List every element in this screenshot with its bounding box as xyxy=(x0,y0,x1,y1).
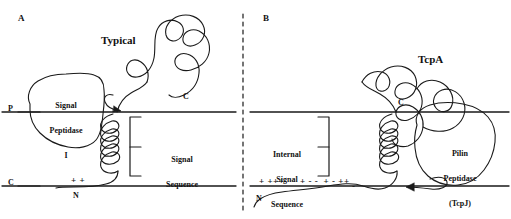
c-terminus-label-right: C xyxy=(398,99,404,107)
internal-signal-helix xyxy=(380,114,399,173)
pilin-peptidase-label-line1: Pilin xyxy=(424,150,496,158)
charge-marks-right-group1: + +++ xyxy=(259,177,284,186)
mature-chain-emerging-right xyxy=(362,82,396,112)
n-terminus-label-right: N xyxy=(256,195,262,203)
periplasm-label-left: P xyxy=(8,105,13,113)
charge-mark-right-trailing: - xyxy=(352,182,356,191)
n-terminus-label-left: N xyxy=(73,192,79,200)
signal-sequence-label-line1: Signal xyxy=(148,156,216,164)
panel-a-letter: A xyxy=(18,14,25,23)
typical-protein-label: Typical xyxy=(101,35,136,47)
typical-protein-chain xyxy=(127,15,210,97)
mature-chain-emerging-left xyxy=(117,82,147,112)
signal-sequence-bracket-label: Signal Sequence xyxy=(148,139,216,206)
charge-marks-right-group2: + - - + - ++ xyxy=(300,177,350,186)
figure-canvas: A Typical Signal Peptidase I P C Signal … xyxy=(0,0,511,219)
signal-sequence-label-line2: Sequence xyxy=(148,181,216,189)
pilin-peptidase-label: Pilin Peptidase (TcpJ) xyxy=(424,133,496,219)
internal-signal-label-line3: Sequence xyxy=(258,201,316,209)
signal-peptidase-label-line3: I xyxy=(33,152,99,160)
tcpa-protein-lobe-right xyxy=(417,80,465,131)
tcpa-protein-label: TcpA xyxy=(418,54,443,66)
cleavage-arrow-head-right xyxy=(406,183,414,191)
charge-marks-left: + + xyxy=(71,176,85,185)
pilin-peptidase-label-line2: Peptidase xyxy=(424,175,496,183)
signal-peptidase-label: Signal Peptidase I xyxy=(33,85,99,177)
cytoplasm-label-left: C xyxy=(8,179,14,187)
internal-signal-label-line1: Internal xyxy=(258,151,316,159)
panel-b-letter: B xyxy=(263,14,269,23)
signal-sequence-helix xyxy=(101,114,120,173)
signal-peptidase-label-line2: Peptidase xyxy=(33,127,99,135)
c-terminus-label-left: C xyxy=(183,93,189,101)
cleavage-arrow-head-left xyxy=(113,106,121,112)
signal-peptidase-label-line1: Signal xyxy=(33,102,99,110)
pilin-peptidase-label-line3: (TcpJ) xyxy=(424,200,496,208)
